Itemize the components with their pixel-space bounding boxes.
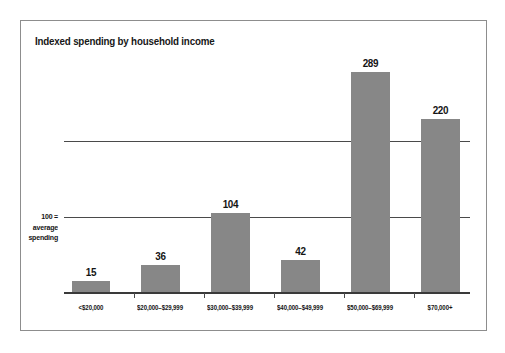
bar-category-5 bbox=[421, 119, 460, 292]
category-label-5: $70,000+ bbox=[408, 304, 472, 311]
category-label-3: $40,000–$49,999 bbox=[268, 304, 332, 311]
gridline-200 bbox=[64, 141, 470, 142]
bar-value-0: 15 bbox=[74, 266, 108, 278]
axis-tick bbox=[274, 293, 275, 298]
bar-category-2 bbox=[211, 213, 250, 292]
bar-category-0 bbox=[72, 281, 110, 292]
gridline-100 bbox=[64, 217, 470, 218]
average-spending-annotation: 100 = average spending bbox=[0, 212, 58, 244]
category-label-0: <$20,000 bbox=[59, 304, 123, 311]
x-axis-baseline bbox=[64, 292, 470, 294]
bar-value-4: 289 bbox=[353, 57, 388, 69]
plot-area: 100 = average spending 15 36 104 42 289 … bbox=[0, 0, 505, 353]
bar-value-5: 220 bbox=[423, 104, 458, 116]
bar-category-3 bbox=[281, 260, 320, 292]
bar-category-4 bbox=[351, 72, 390, 292]
annotation-line-1: 100 = bbox=[0, 212, 58, 223]
bar-category-1 bbox=[141, 265, 180, 292]
annotation-line-3: spending bbox=[0, 233, 58, 244]
bar-value-3: 42 bbox=[283, 245, 318, 257]
category-label-2: $30,000–$39,999 bbox=[198, 304, 262, 311]
axis-tick bbox=[414, 293, 415, 298]
category-label-4: $50,000–$69,999 bbox=[338, 304, 402, 311]
bar-value-1: 36 bbox=[143, 250, 178, 262]
category-label-1: $20,000–$29,999 bbox=[128, 304, 192, 311]
chart-figure: Indexed spending by household income 100… bbox=[0, 0, 505, 353]
axis-tick bbox=[204, 293, 205, 298]
annotation-line-2: average bbox=[0, 223, 58, 234]
bar-value-2: 104 bbox=[213, 198, 248, 210]
axis-tick bbox=[344, 293, 345, 298]
axis-tick bbox=[134, 293, 135, 298]
